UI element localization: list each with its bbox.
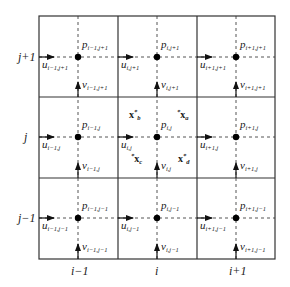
v-label-r0c1: vi,j+1 (161, 78, 179, 91)
p-node-r0c0 (75, 54, 81, 60)
labels-row-2: pi−1,j−1 ui−1,j−1 vi−1,j−1 pi,j−1 ui,j−1… (42, 199, 266, 253)
p-node-r2c1 (154, 215, 160, 221)
p-node-r1c1 (154, 134, 160, 140)
v-label-r1c2: vi+1,j (240, 159, 258, 172)
col-label-i: i (155, 264, 158, 278)
u-label-r2c2: ui+1,j−1 (200, 219, 226, 232)
col-label-i-minus-1: i−1 (71, 264, 88, 278)
v-label-r1c0: vi−1,j (82, 159, 100, 172)
p-label-r0c0: pi−1,j+1 (81, 38, 108, 51)
p-label-r2c2: pi+1,j−1 (239, 199, 266, 212)
staggered-grid-diagram: pi−1,j+1 ui−1,j+1 vi−1,j+1 pi,j+1 ui,j+1… (0, 0, 290, 287)
v-label-r0c2: vi+1,j+1 (240, 78, 265, 91)
p-node-r0c2 (233, 54, 239, 60)
row-label-j-minus-1: j−1 (16, 211, 35, 225)
p-node-r2c0 (75, 215, 81, 221)
p-label-r2c1: pi,j−1 (160, 199, 179, 212)
x-star-d-label: x*d (178, 152, 190, 165)
u-label-r1c0: ui−1,j (42, 138, 61, 151)
p-label-r0c2: pi+1,j+1 (239, 38, 266, 51)
v-label-r2c0: vi−1,j−1 (82, 240, 107, 253)
u-label-r2c0: ui−1,j−1 (42, 219, 68, 232)
x-star-a-label: *xa (177, 108, 189, 121)
u-label-r1c2: ui+1,j (200, 138, 219, 151)
x-star-c-label: *xc (131, 152, 142, 165)
p-node-r2c2 (233, 215, 239, 221)
p-label-r1c0: pi−1,j (81, 118, 101, 131)
v-label-r2c1: vi,j−1 (161, 240, 179, 253)
x-star-b-label: x*b (129, 108, 141, 121)
p-label-r1c2: pi+1,j (239, 118, 259, 131)
axis-labels: j+1 j j−1 i−1 i i+1 (16, 50, 246, 278)
u-label-r2c1: ui,j−1 (121, 219, 139, 232)
v-label-r1c1: vi,j (161, 159, 171, 172)
p-label-r1c1: pi,j (160, 118, 172, 131)
u-label-r0c0: ui−1,j+1 (42, 58, 68, 71)
labels-row-0: pi−1,j+1 ui−1,j+1 vi−1,j+1 pi,j+1 ui,j+1… (42, 38, 266, 91)
v-label-r2c2: vi+1,j−1 (240, 240, 265, 253)
row-label-j-plus-1: j+1 (16, 50, 35, 64)
p-node-r0c1 (154, 54, 160, 60)
labels-row-1: pi−1,j ui−1,j vi−1,j pi,j ui,j vi,j pi+1… (42, 118, 259, 172)
p-node-r1c2 (233, 134, 239, 140)
u-label-r1c1: ui,j (121, 138, 132, 151)
p-label-r2c0: pi−1,j−1 (81, 199, 108, 212)
u-label-r0c2: ui+1,j+1 (200, 58, 226, 71)
p-label-r0c1: pi,j+1 (160, 38, 179, 51)
p-node-r1c0 (75, 134, 81, 140)
row-label-j: j (22, 130, 28, 144)
col-label-i-plus-1: i+1 (229, 264, 246, 278)
v-label-r0c0: vi−1,j+1 (82, 78, 107, 91)
u-label-r0c1: ui,j+1 (121, 58, 139, 71)
